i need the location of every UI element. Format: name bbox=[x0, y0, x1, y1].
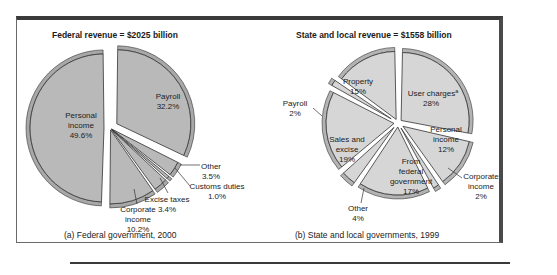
value-personal-income: 49.6% bbox=[70, 131, 93, 140]
value-personal-income: 12% bbox=[438, 145, 454, 154]
value-other: 3.5% bbox=[202, 172, 220, 181]
label-from-federal-government-2: federal bbox=[399, 167, 424, 176]
federal-chart-title: Federal revenue = $2025 billion bbox=[52, 30, 178, 40]
label-other: Other bbox=[201, 162, 221, 171]
label-corporate-income-2: income bbox=[468, 182, 494, 191]
label-corporate-income: Corporate bbox=[120, 205, 156, 214]
value-sales-and-excise: 19% bbox=[339, 155, 355, 164]
leader-other bbox=[361, 188, 364, 203]
label-payroll: Payroll bbox=[156, 92, 181, 101]
label-property: Property bbox=[343, 77, 373, 86]
value-user-charges: 28% bbox=[423, 99, 439, 108]
value-property: 15% bbox=[350, 87, 366, 96]
label-personal-income: Personal bbox=[430, 125, 462, 134]
state-chart-caption: (b) State and local governments, 1999 bbox=[295, 230, 439, 240]
label-user-charges: User chargesa bbox=[408, 88, 460, 98]
label-other: Other bbox=[348, 204, 368, 213]
value-from-federal-government: 17% bbox=[403, 187, 419, 196]
charts-canvas: Federal revenue = $2025 billion Payroll3… bbox=[0, 0, 557, 275]
label-sales-and-excise-2: excise bbox=[336, 145, 359, 154]
label-customs-duties: Customs duties bbox=[189, 182, 244, 191]
label-personal-income-2: income bbox=[433, 135, 459, 144]
leader-payroll bbox=[313, 108, 322, 116]
leader-customs-duties bbox=[175, 168, 190, 186]
state-chart-title: State and local revenue = $1558 billion bbox=[296, 30, 452, 40]
label-payroll: Payroll bbox=[283, 99, 308, 108]
label-corporate-income-2: income bbox=[125, 215, 151, 224]
label-sales-and-excise: Sales and bbox=[329, 135, 365, 144]
label-personal-income-2: income bbox=[68, 121, 94, 130]
label-excise-taxes: Excise taxes bbox=[145, 195, 190, 204]
label-personal-income: Personal bbox=[65, 111, 97, 120]
federal-chart-caption: (a) Federal government, 2000 bbox=[64, 230, 177, 240]
value-payroll: 32.2% bbox=[157, 102, 180, 111]
value-customs-duties: 1.0% bbox=[208, 192, 226, 201]
label-user-charges-text: User charges bbox=[408, 89, 456, 98]
federal-pie bbox=[26, 46, 195, 208]
label-corporate-income: Corporate bbox=[463, 172, 499, 181]
label-from-federal-government-3: government bbox=[390, 177, 433, 186]
value-other: 4% bbox=[352, 214, 364, 223]
label-from-federal-government: From bbox=[402, 157, 421, 166]
value-corporate-income: 2% bbox=[475, 192, 487, 201]
value-payroll: 2% bbox=[289, 109, 301, 118]
value-excise-taxes: 3.4% bbox=[158, 205, 176, 214]
